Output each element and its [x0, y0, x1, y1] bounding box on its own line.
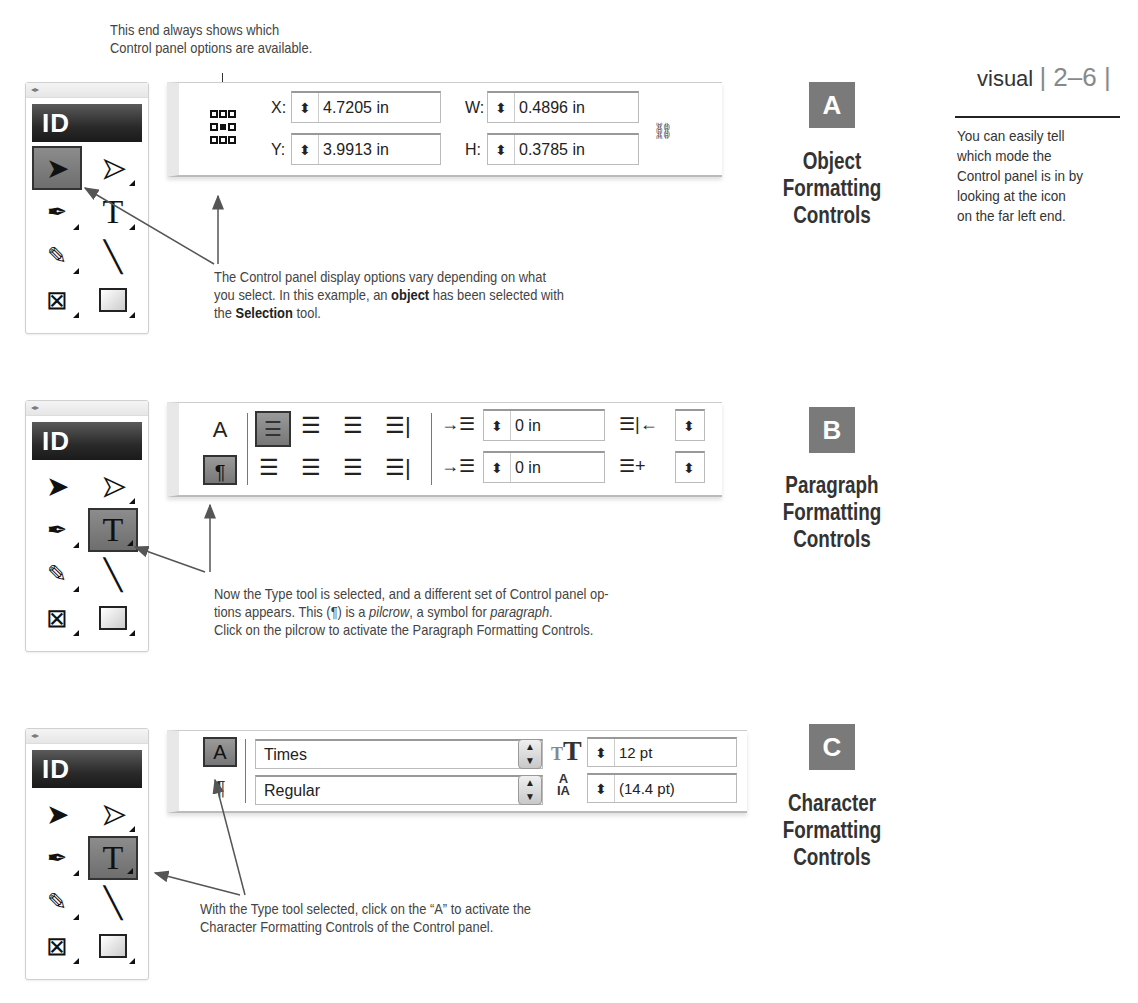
stepper-icon[interactable]: ⬍: [588, 775, 615, 802]
stepper-icon[interactable]: ⬍: [676, 453, 702, 482]
indesign-logo: ID: [32, 422, 142, 460]
right-indent-icon: ☰|←: [619, 413, 658, 435]
h-label: H:: [465, 141, 481, 159]
character-mode-button[interactable]: A: [203, 415, 237, 445]
line-tool[interactable]: ╲: [88, 880, 138, 924]
align-left-button[interactable]: ☰: [255, 411, 291, 447]
pencil-icon: ✎: [47, 560, 67, 588]
leading-field[interactable]: ⬍(14.4 pt): [587, 773, 737, 803]
y-label: Y:: [271, 141, 285, 159]
page-number: | 2–6 |: [1039, 62, 1110, 92]
pen-tool[interactable]: ✒: [32, 190, 82, 234]
type-tool[interactable]: T: [88, 836, 138, 880]
w-field[interactable]: ⬍0.4896 in: [487, 91, 639, 123]
stepper-icon[interactable]: ⬍: [488, 93, 515, 122]
type-tool[interactable]: T: [88, 508, 138, 552]
stepper-icon[interactable]: ⬍: [484, 411, 511, 440]
justify-left-icon[interactable]: ☰: [259, 455, 279, 481]
rectangle-tool[interactable]: [88, 596, 138, 640]
type-t-icon: T: [103, 839, 124, 877]
selection-arrow-icon: ➤: [46, 152, 69, 185]
y-field[interactable]: ⬍3.9913 in: [291, 133, 441, 165]
constrain-proportions-icon[interactable]: ⛓: [653, 121, 673, 140]
font-family-dropdown[interactable]: Times ▲▼: [255, 739, 543, 769]
paragraph-mode-button[interactable]: ¶: [203, 773, 237, 803]
reference-point-icon[interactable]: [209, 109, 237, 145]
toolbox-grip[interactable]: ◂▸: [26, 401, 148, 416]
line-icon: ╲: [104, 885, 122, 920]
rectangle-frame-tool[interactable]: ⊠: [32, 596, 82, 640]
last-line-indent-icon: ☰+: [619, 455, 646, 477]
toolbox-a: ◂▸ ID ➤ ➤ ✒ T ✎ ╲ ⊠: [25, 82, 149, 334]
rectangle-frame-tool[interactable]: ⊠: [32, 278, 82, 322]
line-tool[interactable]: ╲: [88, 234, 138, 278]
rectangle-frame-tool[interactable]: ⊠: [32, 924, 82, 968]
align-right-icon[interactable]: ☰: [343, 413, 363, 439]
stepper-icon[interactable]: ⬍: [676, 411, 702, 440]
pencil-tool[interactable]: ✎: [32, 234, 82, 278]
direct-selection-arrow-icon: ➤: [102, 798, 125, 831]
section-title-c: CharacterFormattingControls: [775, 790, 890, 871]
section-title-a: ObjectFormattingControls: [775, 148, 890, 229]
character-mode-button[interactable]: A: [203, 737, 237, 767]
font-size-field[interactable]: ⬍12 pt: [587, 737, 737, 767]
stepper-icon[interactable]: ⬍: [292, 135, 319, 164]
divider: [431, 413, 432, 485]
selection-arrow-icon: ➤: [46, 470, 69, 503]
stepper-icon[interactable]: ⬍: [484, 453, 511, 482]
dropdown-arrow-icon[interactable]: ▲▼: [518, 775, 542, 805]
pen-tool[interactable]: ✒: [32, 836, 82, 880]
toolbox-grip[interactable]: ◂▸: [26, 83, 148, 98]
toolbox-grip[interactable]: ◂▸: [26, 729, 148, 744]
page-header: visual | 2–6 |: [977, 62, 1111, 93]
align-left-icon: ☰: [264, 418, 282, 440]
type-tool[interactable]: T: [88, 190, 138, 234]
align-away-from-spine-icon[interactable]: ☰|: [385, 455, 411, 481]
selection-tool[interactable]: ➤: [32, 146, 82, 190]
last-line-indent-stepper[interactable]: ⬍: [675, 451, 705, 483]
font-style-dropdown[interactable]: Regular ▲▼: [255, 775, 543, 805]
selection-tool[interactable]: ➤: [32, 792, 82, 836]
h-field[interactable]: ⬍0.3785 in: [487, 133, 639, 165]
direct-selection-tool[interactable]: ➤: [88, 792, 138, 836]
paragraph-mode-button[interactable]: ¶: [203, 455, 237, 485]
align-center-icon[interactable]: ☰: [301, 413, 321, 439]
pen-icon: ✒: [47, 844, 67, 872]
align-towards-spine-icon[interactable]: ☰|: [385, 413, 411, 439]
pencil-tool[interactable]: ✎: [32, 552, 82, 596]
type-t-icon: T: [103, 511, 124, 549]
left-indent-icon: →☰: [441, 413, 475, 435]
rectangle-tool[interactable]: [88, 278, 138, 322]
selection-tool[interactable]: ➤: [32, 464, 82, 508]
pencil-tool[interactable]: ✎: [32, 880, 82, 924]
rectangle-tool[interactable]: [88, 924, 138, 968]
stepper-icon[interactable]: ⬍: [292, 93, 319, 122]
header-rule: [955, 116, 1120, 118]
line-icon: ╲: [104, 557, 122, 592]
x-field[interactable]: ⬍4.7205 in: [291, 91, 441, 123]
pencil-icon: ✎: [47, 242, 67, 270]
left-indent-field[interactable]: ⬍0 in: [483, 409, 605, 441]
indesign-logo: ID: [32, 750, 142, 788]
indesign-logo: ID: [32, 104, 142, 142]
control-panel-paragraph: A ¶ ☰ ☰ ☰ ☰| ☰ ☰ ☰ ☰| →☰ ⬍0 in →☰ ⬍0 in …: [167, 402, 722, 497]
stepper-icon[interactable]: ⬍: [588, 739, 615, 766]
x-label: X:: [271, 99, 286, 117]
rectangle-icon: [99, 934, 127, 958]
first-line-indent-field[interactable]: ⬍0 in: [483, 451, 605, 483]
divider: [247, 413, 248, 485]
pen-tool[interactable]: ✒: [32, 508, 82, 552]
justify-all-icon[interactable]: ☰: [343, 455, 363, 481]
toolbox-c: ◂▸ ID ➤ ➤ ✒ T ✎ ╲ ⊠: [25, 728, 149, 980]
direct-selection-tool[interactable]: ➤: [88, 464, 138, 508]
toolbox-b: ◂▸ ID ➤ ➤ ✒ T ✎ ╲ ⊠: [25, 400, 149, 652]
direct-selection-tool[interactable]: ➤: [88, 146, 138, 190]
rectangle-icon: [99, 606, 127, 630]
dropdown-arrow-icon[interactable]: ▲▼: [518, 739, 542, 769]
justify-center-icon[interactable]: ☰: [301, 455, 321, 481]
stepper-icon[interactable]: ⬍: [488, 135, 515, 164]
pen-icon: ✒: [47, 516, 67, 544]
section-title-b: ParagraphFormattingControls: [775, 472, 890, 553]
line-tool[interactable]: ╲: [88, 552, 138, 596]
right-indent-stepper[interactable]: ⬍: [675, 409, 705, 441]
